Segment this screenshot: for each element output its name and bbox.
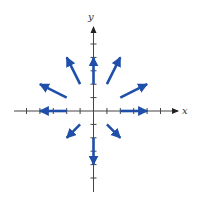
- vector-arrow: [107, 57, 120, 84]
- y-axis-label: y: [87, 11, 94, 22]
- vector-arrow: [107, 124, 120, 137]
- x-axis-label: x: [182, 105, 188, 116]
- vector-arrow: [40, 84, 67, 97]
- vector-field-diagram: x y: [0, 0, 198, 199]
- vector-arrow: [67, 124, 80, 137]
- vector-arrow: [67, 57, 80, 84]
- axes: x y: [14, 11, 188, 192]
- vector-arrow: [120, 84, 147, 97]
